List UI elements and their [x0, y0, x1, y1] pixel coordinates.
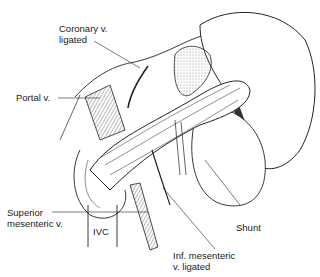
label-superior-mesenteric-vein: Superior mesenteric v.	[7, 207, 63, 229]
illustration-drawing	[0, 0, 320, 277]
label-coronary-vein: Coronary v. ligated	[59, 23, 107, 45]
anatomical-illustration: Coronary v. ligated Portal v. Superior m…	[0, 0, 320, 277]
label-inf-mesenteric-vein: Inf. mesenteric v. ligated	[173, 250, 235, 272]
label-portal-vein: Portal v.	[16, 92, 50, 103]
label-shunt: Shunt	[236, 222, 261, 233]
label-ivc: IVC	[93, 226, 109, 237]
